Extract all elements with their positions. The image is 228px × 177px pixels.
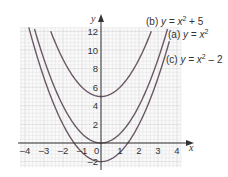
label-b: (b) y = x2 + 5 xyxy=(146,15,204,27)
x-tick-label: 0 xyxy=(94,145,99,156)
label-a: (a) y = x2 xyxy=(168,28,208,40)
x-tick-label: –4 xyxy=(20,145,31,156)
y-tick-label: 6 xyxy=(93,82,98,93)
x-tick-label: –1 xyxy=(77,145,88,156)
x-tick-label: 2 xyxy=(136,145,141,156)
x-tick-label: –3 xyxy=(39,145,50,156)
y-axis-arrow-icon xyxy=(98,14,104,22)
y-tick-label: 2 xyxy=(93,119,98,130)
y-tick-label: 10 xyxy=(87,45,98,56)
label-c: (c) y = x2 – 2 xyxy=(166,53,223,65)
x-tick-label: –2 xyxy=(58,145,69,156)
y-tick-label: 12 xyxy=(87,26,98,37)
x-tick-label: 1 xyxy=(117,145,122,156)
x-tick-label: 4 xyxy=(174,145,179,156)
y-tick-label: 4 xyxy=(93,100,98,111)
parabola-chart: x y –4–3–2–101234–224681012 (b) y = x2 +… xyxy=(0,0,228,177)
y-tick-label: –2 xyxy=(87,156,98,167)
y-tick-label: 8 xyxy=(93,63,98,74)
x-tick-label: 3 xyxy=(155,145,160,156)
x-axis-label: x xyxy=(188,142,194,153)
y-axis-label: y xyxy=(90,13,96,24)
